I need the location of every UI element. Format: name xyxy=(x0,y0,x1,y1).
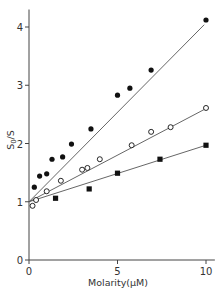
y-tick-label: 4 xyxy=(17,22,23,33)
filled-circle-point xyxy=(149,68,154,73)
open-circle-point xyxy=(30,203,35,208)
filled-square-point xyxy=(87,186,92,191)
open-circle-point xyxy=(44,189,49,194)
filled-circle-point xyxy=(44,171,49,176)
filled-circle-point xyxy=(127,86,132,91)
filled-circle-point xyxy=(49,157,54,162)
axes: 012340510 xyxy=(17,10,215,277)
open-circle-point xyxy=(149,129,154,134)
x-tick-label: 10 xyxy=(200,266,213,277)
filled-square-point xyxy=(203,143,208,148)
open-circle-point xyxy=(129,143,134,148)
filled-circle-point xyxy=(115,93,120,98)
filled-square-point xyxy=(115,171,120,176)
open-circle-point xyxy=(85,165,90,170)
open-circle-point xyxy=(168,125,173,130)
x-axis-title: Molarity(μM) xyxy=(88,277,148,288)
open-circle-point xyxy=(34,198,39,203)
filled-circle-point xyxy=(88,126,93,131)
filled-circle-point xyxy=(60,154,65,159)
filled-circle-point xyxy=(37,174,42,179)
x-tick-label: 5 xyxy=(114,266,120,277)
x-tick-label: 0 xyxy=(26,266,32,277)
filled-circle-point xyxy=(32,185,37,190)
filled-circle-point xyxy=(203,17,208,22)
open-circle-point xyxy=(58,178,63,183)
fit-line xyxy=(29,109,206,202)
y-tick-label: 1 xyxy=(17,197,23,208)
filled-square-point xyxy=(157,157,162,162)
open-circle-point xyxy=(204,105,209,110)
filled-circle-point xyxy=(69,141,74,146)
open-circle-point xyxy=(97,157,102,162)
filled-square-point xyxy=(53,196,58,201)
open-circle-point xyxy=(80,167,85,172)
chart-canvas: 012340510 Molarity(μM) S0/S xyxy=(0,0,220,299)
y-tick-label: 0 xyxy=(17,255,23,266)
y-tick-label: 3 xyxy=(17,80,23,91)
data-markers xyxy=(30,17,209,208)
